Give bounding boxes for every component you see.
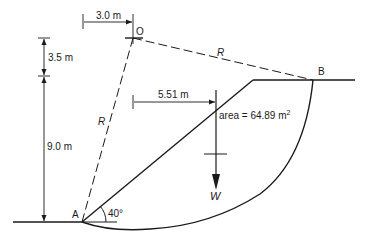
weight-arrowhead xyxy=(212,174,220,190)
dim-5-51m-label: 5.51 m xyxy=(158,89,189,100)
dim-3m-label: 3.0 m xyxy=(96,10,121,21)
radius-line-oa xyxy=(82,38,133,222)
radius-label-oa: R xyxy=(98,116,105,127)
slope-angle-label: 40° xyxy=(108,208,123,219)
radius-label-ob: R xyxy=(217,47,224,58)
point-a-label: A xyxy=(72,209,79,220)
slope-stability-diagram: O 3.0 m 3.5 m 9.0 m A 40° B R R 5.51 m W… xyxy=(0,0,366,239)
area-label: area = 64.89 m2 xyxy=(219,109,291,121)
slope-face xyxy=(82,80,253,222)
dim-9m-label: 9.0 m xyxy=(47,141,72,152)
area-text: area = 64.89 m xyxy=(219,110,287,121)
point-b-label: B xyxy=(318,66,325,77)
radius-line-ob xyxy=(133,38,313,80)
angle-arc xyxy=(100,206,106,222)
area-superscript: 2 xyxy=(287,109,291,116)
point-o-label: O xyxy=(136,26,144,37)
weight-label: W xyxy=(210,190,222,202)
dim-3-5m-label: 3.5 m xyxy=(48,52,73,63)
